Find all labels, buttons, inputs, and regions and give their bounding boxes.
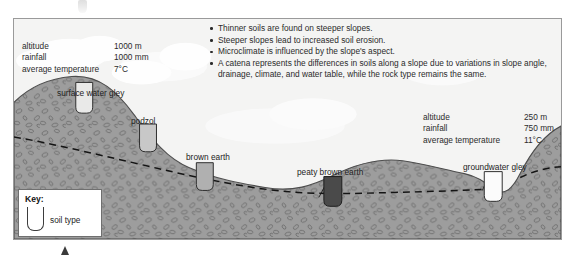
bullet-item: Thinner soils are found on steeper slope… [210,23,555,35]
bullet-text: Microclimate is influenced by the slope'… [218,46,555,58]
conditions-label: rainfall [423,123,447,134]
soil-pit-peaty-brown-earth [324,177,342,207]
bullet-dot-icon [210,39,213,42]
soil-catena-figure: altitude 1000 m rainfall 1000 mm average… [13,18,562,240]
legend-title: Key: [25,194,44,204]
bullet-item: A catena represents the differences in s… [210,58,555,81]
conditions-value: 1000 mm [114,52,149,63]
conditions-label: rainfall [22,52,46,63]
bullet-dot-icon [210,27,213,30]
bullet-item: Microclimate is influenced by the slope'… [210,46,555,58]
soil-label-brown-earth: brown earth [186,152,230,162]
soil-pit-brown-earth [196,163,213,191]
conditions-value: 7°C [114,64,128,75]
conditions-label: average temperature [22,64,99,75]
conditions-value: 250 m [524,112,547,123]
bullet-text: A catena represents the differences in s… [218,58,555,81]
conditions-label: average temperature [423,135,500,146]
soil-label-peaty-brown-earth: peaty brown earth [297,167,363,177]
legend-swatch-label: soil type [50,215,80,225]
conditions-label: altitude [423,112,450,123]
legend-key-box: Key: soil type [18,189,102,237]
bullet-dot-icon [210,51,213,54]
explanation-bullet-list: Thinner soils are found on steeper slope… [210,23,555,81]
conditions-value: 1000 m [114,41,142,52]
soil-label-surface-water-gley: surface water gley [57,88,124,98]
bullet-dot-icon [210,62,213,65]
conditions-value: 11°C [524,135,542,146]
scan-artifact [78,0,87,13]
conditions-value: 750 mm [524,123,554,134]
soil-pit-swatch-icon [27,207,44,231]
bullet-item: Steeper slopes lead to increased soil er… [210,35,555,47]
soil-label-groundwater-gley: groundwater gley [463,162,527,172]
soil-pit-groundwater-gley [484,172,502,202]
conditions-label: altitude [22,41,49,52]
soil-label-podzol: podzol [131,116,155,126]
page-marker-arrow-icon [61,246,69,255]
soil-pit-podzol [140,124,157,152]
figure-stage: altitude 1000 m rainfall 1000 mm average… [0,0,575,262]
bullet-text: Steeper slopes lead to increased soil er… [218,35,555,47]
bullet-text: Thinner soils are found on steeper slope… [218,23,555,35]
